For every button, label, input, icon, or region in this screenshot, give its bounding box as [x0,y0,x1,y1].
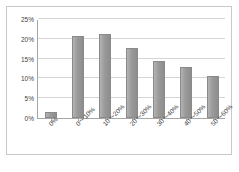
bar-slot [119,20,146,118]
bar-slot [92,20,119,118]
bar-slot [145,20,172,118]
bar-slot [65,20,92,118]
y-axis-tick-label: 0% [25,116,34,123]
bar[interactable] [153,61,165,118]
bar[interactable] [72,36,84,118]
chart-frame: 0%5%10%15%20%25% 0%0～10%10～20%20～30%30～4… [6,6,232,155]
y-axis-tick-label: 5% [25,96,34,103]
y-axis-tick-label: 20% [21,37,34,44]
bar[interactable] [99,34,111,118]
y-axis-tick-label: 10% [21,76,34,83]
bar[interactable] [180,67,192,118]
figure-container: 0%5%10%15%20%25% 0%0～10%10～20%20～30%30～4… [0,0,239,172]
plot-area [37,20,225,119]
gridline [38,18,225,19]
y-axis-tick-label: 15% [21,57,34,64]
x-axis-tick-label: 0% [48,116,59,127]
bar-slot [172,20,199,118]
x-axis-labels: 0%0～10%10～20%20～30%30～40%40～50%50～60% [37,119,225,159]
y-axis-tick-label: 25% [21,17,34,24]
bar-slot [38,20,65,118]
bar[interactable] [207,76,219,118]
y-axis-labels: 0%5%10%15%20%25% [7,7,37,154]
bar-slot [199,20,226,118]
bar[interactable] [126,48,138,118]
